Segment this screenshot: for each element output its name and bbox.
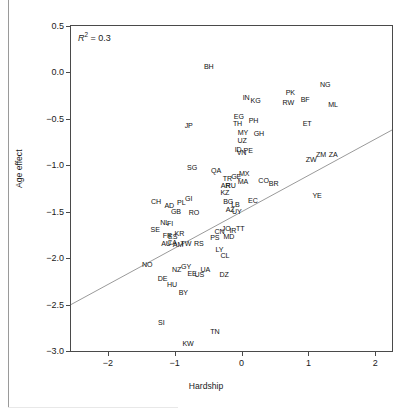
y-tick-label: 0.5 xyxy=(36,21,64,31)
data-point-in: IN xyxy=(243,94,250,102)
data-point-fi: FI xyxy=(167,220,173,228)
y-tick-label: −2.5 xyxy=(36,300,64,310)
plot-area: BHJPSGINKGPKNGRWBFMLEGTHPHGHETMYUZIDVNPE… xyxy=(71,26,392,351)
data-point-rs: RS xyxy=(194,240,204,248)
y-tick-label: −0.5 xyxy=(36,114,64,124)
data-point-pk: PK xyxy=(286,89,295,97)
data-point-ec: EC xyxy=(248,197,258,205)
data-point-br: BR xyxy=(269,180,279,188)
data-point-qa: QA xyxy=(211,167,221,175)
y-tick-label: −3.0 xyxy=(36,346,64,356)
figure-scatter-age-effect-vs-hardship: Age effect Hardship 0.50.0−0.5−1.0−1.5−2… xyxy=(0,0,412,413)
x-tick-mark xyxy=(108,352,109,356)
x-tick-mark xyxy=(242,352,243,356)
x-tick-mark xyxy=(375,352,376,356)
data-point-rw: RW xyxy=(283,99,295,107)
x-tick-mark xyxy=(175,352,176,356)
r-squared-annotation: R2 = 0.3 xyxy=(78,31,111,43)
data-point-md: MD xyxy=(223,233,234,241)
data-point-kr: KR xyxy=(175,230,185,238)
page-bottom-rule xyxy=(8,407,178,408)
data-point-ye: YE xyxy=(312,192,321,200)
data-point-kz: KZ xyxy=(220,189,229,197)
y-tick-label: −1.5 xyxy=(36,207,64,217)
data-point-co: CO xyxy=(258,177,268,185)
data-point-gi: GI xyxy=(185,195,192,203)
data-point-pe: PE xyxy=(244,147,253,155)
x-tick-mark xyxy=(308,352,309,356)
data-point-ml: ML xyxy=(328,101,338,109)
data-point-tt: TT xyxy=(236,225,244,233)
data-point-uy: UY xyxy=(232,208,242,216)
data-point-bf: BF xyxy=(301,96,310,104)
data-point-uz: UZ xyxy=(238,137,247,145)
y-tick-label: 0.0 xyxy=(36,67,64,77)
data-point-mx: MX xyxy=(239,170,249,178)
data-point-ph: PH xyxy=(249,117,259,125)
x-tick-label: −1 xyxy=(170,358,180,368)
data-point-my: MY xyxy=(238,129,248,137)
data-point-ro: RO xyxy=(189,209,199,217)
data-point-se: SE xyxy=(151,226,160,234)
plot-frame: BHJPSGINKGPKNGRWBFMLEGTHPHGHETMYUZIDVNPE… xyxy=(70,25,393,352)
data-point-ma: MA xyxy=(238,178,248,186)
data-point-gb: GB xyxy=(171,208,181,216)
data-point-bh: BH xyxy=(204,63,214,71)
data-point-ch: CH xyxy=(151,198,161,206)
data-point-ps: PS xyxy=(210,234,219,242)
data-point-zw: ZW xyxy=(306,156,317,164)
data-point-zm: ZM xyxy=(316,151,326,159)
data-point-ng: NG xyxy=(320,81,330,89)
x-tick-label: 1 xyxy=(306,358,311,368)
page-left-rule xyxy=(8,0,9,408)
data-point-hu: HU xyxy=(167,281,177,289)
data-point-dz: DZ xyxy=(220,271,229,279)
x-tick-label: −2 xyxy=(103,358,113,368)
data-point-gh: GH xyxy=(254,130,264,138)
data-point-za: ZA xyxy=(329,151,338,159)
data-point-th: TH xyxy=(233,120,242,128)
y-tick-label: −1.0 xyxy=(36,160,64,170)
x-axis-label: Hardship xyxy=(0,381,412,391)
data-point-si: SI xyxy=(158,319,165,327)
x-tick-label: 2 xyxy=(373,358,378,368)
data-point-tn: TN xyxy=(210,328,219,336)
y-axis-label: Age effect xyxy=(14,149,24,188)
data-point-et: ET xyxy=(303,120,312,128)
data-point-by: BY xyxy=(179,289,188,297)
data-point-tw: TW xyxy=(181,240,192,248)
data-point-kw: KW xyxy=(182,340,193,348)
data-point-jp: JP xyxy=(185,122,193,130)
data-point-kg: KG xyxy=(251,97,261,105)
data-point-cl: CL xyxy=(220,252,229,260)
r-squared-value: = 0.3 xyxy=(88,33,111,43)
data-point-ua: UA xyxy=(201,266,211,274)
data-point-sg: SG xyxy=(187,164,197,172)
data-point-nz: NZ xyxy=(172,266,181,274)
x-tick-label: 0 xyxy=(239,358,244,368)
data-point-no: NO xyxy=(142,261,152,269)
y-tick-label: −2.0 xyxy=(36,253,64,263)
